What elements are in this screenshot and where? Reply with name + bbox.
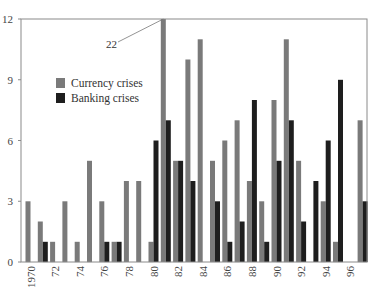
bar-currency-1974 xyxy=(75,242,80,262)
x-tick-label: 74 xyxy=(74,266,86,278)
bar-banking-1992 xyxy=(301,222,306,263)
bar-currency-1985 xyxy=(210,161,215,262)
bar-banking-1985 xyxy=(215,201,220,262)
bar-banking-1977 xyxy=(117,242,122,262)
bars-group xyxy=(26,19,368,262)
x-tick-label: 76 xyxy=(98,266,110,278)
y-tick-label: 9 xyxy=(8,74,14,86)
bar-banking-1994 xyxy=(326,141,331,263)
bar-currency-1973 xyxy=(62,201,67,262)
x-axis: 197072747678808284868890929496 xyxy=(25,266,357,289)
bar-banking-1976 xyxy=(104,242,109,262)
bar-banking-1980 xyxy=(154,141,159,263)
x-tick-label: 86 xyxy=(221,266,233,278)
bar-currency-1990 xyxy=(272,100,277,262)
x-tick-label: 82 xyxy=(172,266,184,277)
bar-currency-1970 xyxy=(26,201,31,262)
bar-currency-1971 xyxy=(38,222,43,263)
bar-banking-1993 xyxy=(313,181,318,262)
bar-currency-1989 xyxy=(259,201,264,262)
bar-banking-1982 xyxy=(178,161,183,262)
y-tick-label: 12 xyxy=(2,13,13,25)
legend: Currency crises Banking crises xyxy=(56,77,143,105)
x-tick-label: 80 xyxy=(148,266,160,278)
bar-currency-1997 xyxy=(358,120,363,262)
bar-banking-1990 xyxy=(277,161,282,262)
bar-currency-1980 xyxy=(149,242,154,262)
legend-label-currency: Currency crises xyxy=(71,77,143,90)
x-tick-label: 1970 xyxy=(25,266,37,289)
bar-currency-1986 xyxy=(222,141,227,263)
bar-banking-1988 xyxy=(252,100,257,262)
y-tick-label: 6 xyxy=(8,135,14,147)
legend-swatch-banking xyxy=(56,93,65,103)
bar-currency-1972 xyxy=(50,242,55,262)
bar-currency-1991 xyxy=(284,39,289,262)
bar-banking-1983 xyxy=(190,181,195,262)
x-tick-label: 96 xyxy=(344,266,356,278)
bar-currency-1981 xyxy=(161,19,166,262)
bar-currency-1988 xyxy=(247,181,252,262)
bar-banking-1981 xyxy=(166,120,171,262)
bar-banking-1995 xyxy=(338,80,343,262)
bar-currency-1992 xyxy=(296,161,301,262)
legend-swatch-currency xyxy=(56,78,65,88)
bar-banking-1971 xyxy=(43,242,48,262)
legend-label-banking: Banking crises xyxy=(71,92,140,105)
x-tick-label: 90 xyxy=(271,266,283,278)
bar-currency-1977 xyxy=(112,242,117,262)
bar-banking-1989 xyxy=(264,242,269,262)
bar-currency-1994 xyxy=(321,201,326,262)
bar-currency-1979 xyxy=(136,181,141,262)
bar-banking-1986 xyxy=(227,242,232,262)
y-tick-label: 0 xyxy=(8,256,14,268)
bar-currency-1995 xyxy=(333,242,338,262)
bar-currency-1978 xyxy=(124,181,129,262)
y-axis: 036912 xyxy=(2,13,21,268)
x-tick-label: 92 xyxy=(295,266,307,277)
bar-chart: 036912 197072747678808284868890929496 22… xyxy=(0,0,378,297)
bar-currency-1983 xyxy=(185,60,190,263)
bar-currency-1976 xyxy=(99,201,104,262)
annotation-22: 22 xyxy=(106,19,163,50)
bar-currency-1982 xyxy=(173,161,178,262)
annotation-leader-line xyxy=(118,19,163,42)
bar-banking-1987 xyxy=(240,222,245,263)
annotation-label: 22 xyxy=(106,38,117,50)
x-tick-label: 78 xyxy=(123,266,135,278)
bar-currency-1987 xyxy=(235,120,240,262)
x-tick-label: 88 xyxy=(246,266,258,278)
y-tick-label: 3 xyxy=(8,195,14,207)
x-tick-label: 94 xyxy=(320,266,332,278)
x-tick-label: 84 xyxy=(197,266,209,278)
x-tick-label: 72 xyxy=(49,266,61,277)
bar-banking-1991 xyxy=(289,120,294,262)
bar-currency-1984 xyxy=(198,39,203,262)
bar-currency-1975 xyxy=(87,161,92,262)
